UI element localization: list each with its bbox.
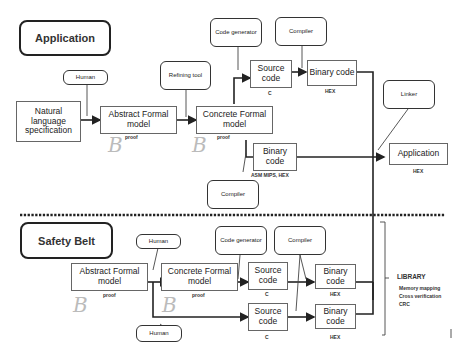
compiler-callout-top: Compiler <box>275 17 327 46</box>
binary-code-format-label: HEX <box>325 88 335 94</box>
binary-code-safety-1-format-label: HEX <box>330 291 340 297</box>
abstract-proof-label: proof <box>125 134 138 140</box>
b-method-mark: B <box>73 293 88 317</box>
compiler-callout-bottom: Compiler <box>207 180 259 209</box>
binary-code-box: Binary code <box>307 60 357 86</box>
safety-belt-section-title: Safety Belt <box>20 222 113 259</box>
b-method-mark: B <box>108 133 123 157</box>
code-generator-callout: Code generator <box>210 18 262 47</box>
source-code-box: Source code <box>250 60 292 88</box>
abstract-formal-model-box: Abstract Formal model <box>100 106 177 134</box>
binary-code-box-2: Binary code <box>253 143 297 171</box>
linker-callout: Linker <box>383 80 435 109</box>
application-format-label: HEX <box>413 168 423 174</box>
binary-code-2-format-label: ASM MIPS, HEX <box>251 172 289 178</box>
code-generator-callout-bottom: Code generator <box>215 226 267 255</box>
concrete-proof-label-safety: proof <box>192 292 205 298</box>
b-method-mark: B <box>162 293 177 317</box>
binary-code-safety-2-format-label: HEX <box>330 334 340 340</box>
source-code-box-safety-1: Source code <box>248 262 288 290</box>
natural-language-spec-box: Natural language specification <box>16 101 81 142</box>
concrete-formal-model-box-safety: Concrete Formal model <box>161 263 238 291</box>
safety-belt-title-text: Safety Belt <box>38 235 95 247</box>
human-callout-bottom-top: Human <box>136 234 181 249</box>
concrete-formal-model-box: Concrete Formal model <box>196 106 273 134</box>
source-code-lang-label: C <box>268 90 272 96</box>
human-callout-bottom-low: Human <box>136 325 182 342</box>
library-item-crc: CRC <box>399 301 410 307</box>
concrete-proof-label: proof <box>217 134 230 140</box>
application-section-title: Application <box>19 20 111 56</box>
abstract-formal-model-box-safety: Abstract Formal model <box>71 263 148 291</box>
library-item-memory-mapping: Memory mapping <box>399 285 440 291</box>
library-item-cross-verification: Cross verification <box>399 293 441 299</box>
source-code-box-safety-2: Source code <box>248 303 288 331</box>
b-method-mark: B <box>192 133 207 157</box>
abstract-proof-label-safety: proof <box>103 292 116 298</box>
compiler-callout-safety: Compiler <box>274 226 326 255</box>
application-title-text: Application <box>35 32 95 44</box>
source-code-2-lang-label: C <box>265 334 269 340</box>
binary-code-box-safety-2: Binary code <box>315 304 356 329</box>
binary-code-box-safety-1: Binary code <box>315 264 356 289</box>
library-title: LIBRARY <box>397 273 426 280</box>
application-output-box: Application <box>389 143 448 165</box>
refining-tool-callout: Refining tool <box>160 61 211 90</box>
human-callout: Human <box>63 70 108 85</box>
source-code-1-lang-label: C <box>265 291 269 297</box>
